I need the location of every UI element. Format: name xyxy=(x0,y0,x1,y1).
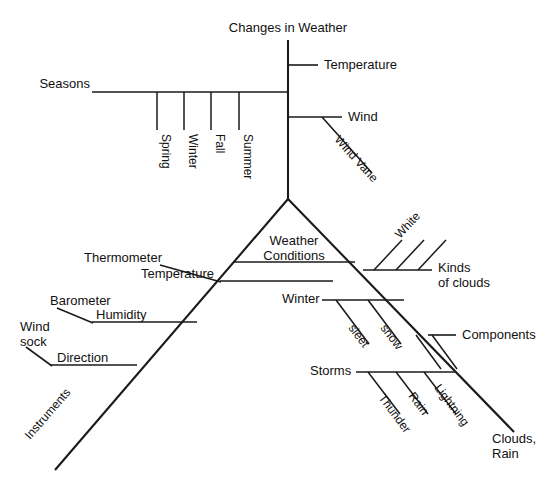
wind-vane-label: Wind Vane xyxy=(332,133,381,186)
wind-sock-label-line1: Wind xyxy=(20,319,50,334)
barometer-label: Barometer xyxy=(50,293,111,308)
season-label-spring: Spring xyxy=(159,134,173,169)
wind-sock-label-line2: sock xyxy=(20,334,47,349)
kinds-of-clouds-label-line2: of clouds xyxy=(438,275,491,290)
left-arm-label: Instruments xyxy=(22,385,74,442)
center-label-line1: Weather xyxy=(270,233,320,248)
left-branch-value-direction: Direction xyxy=(57,350,108,365)
cloud-sub-label-white: White xyxy=(392,209,423,241)
root-label: Changes in Weather xyxy=(229,20,348,35)
storms-branch-label: Storms xyxy=(310,363,352,378)
wind-sock-diagonal-line xyxy=(26,347,52,366)
season-label-summer: Summer xyxy=(241,134,255,179)
wind-branch-label: Wind xyxy=(348,109,378,124)
winter-sub-label-snow: snow xyxy=(378,321,406,352)
kinds-of-clouds-label-line1: Kinds xyxy=(438,260,471,275)
thermometer-label: Thermometer xyxy=(84,250,163,265)
left-arm-line xyxy=(55,199,288,470)
cloud-sub-line-1 xyxy=(374,240,402,270)
components-branch-label: Components xyxy=(462,327,536,342)
left-branch-value-temperature: Temperature xyxy=(141,266,214,281)
weather-fishbone-diagram: Changes in Weather Temperature Seasons S… xyxy=(0,0,554,493)
barometer-diagonal-line xyxy=(57,308,93,323)
season-label-fall: Fall xyxy=(213,134,227,153)
left-branch-value-humidity: Humidity xyxy=(96,307,147,322)
winter-branch-label: Winter xyxy=(282,291,320,306)
cloud-sub-line-2-white xyxy=(396,240,424,270)
winter-sub-label-sleet: sleet xyxy=(346,321,373,350)
right-arm-label-line2: Rain xyxy=(492,446,519,461)
seasons-branch-label: Seasons xyxy=(39,76,90,91)
temperature-branch-label: Temperature xyxy=(324,57,397,72)
diagram-canvas: Changes in Weather Temperature Seasons S… xyxy=(0,0,554,493)
storms-sub-label-lightning: Lightning xyxy=(432,381,473,428)
center-label-line2: Conditions xyxy=(263,248,325,263)
season-label-winter: Winter xyxy=(186,134,200,169)
right-arm-label-line1: Clouds, xyxy=(492,431,536,446)
